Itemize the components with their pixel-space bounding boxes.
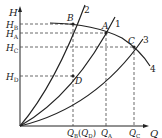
label-A: A: [101, 21, 109, 31]
tick-QB: QB: [67, 128, 78, 138]
guide-lines: [20, 24, 134, 126]
tick-HD: HD: [5, 72, 19, 83]
curve-label-2: 2: [84, 5, 90, 15]
x-axis-arrow-icon: [143, 124, 149, 128]
curve-label-3: 3: [143, 35, 149, 45]
y-axis-label: H: [8, 7, 18, 18]
curve-label-1: 1: [115, 19, 121, 29]
label-C: C: [128, 36, 135, 46]
curve-label-4: 4: [150, 64, 156, 74]
tick-HC: HC: [5, 43, 19, 54]
y-axis-arrow-icon: [18, 6, 22, 12]
tick-QD: (QD): [78, 128, 96, 138]
tick-QC: QC: [129, 128, 140, 138]
pump-pipe-characteristic-diagram: H Q HB HA HC HD QB (QD) QA QC B A C D 2 …: [0, 0, 162, 138]
point-A: [104, 31, 107, 34]
label-B: B: [66, 13, 74, 23]
label-D: D: [74, 76, 82, 86]
x-axis-label: Q: [150, 128, 158, 138]
tick-QA: QA: [101, 128, 113, 138]
